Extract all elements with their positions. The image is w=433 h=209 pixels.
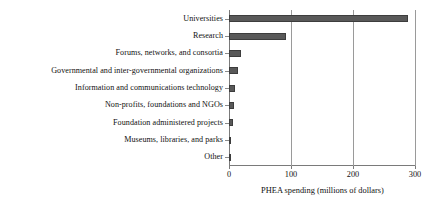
bar [229, 50, 241, 57]
y-tick-mark [225, 140, 229, 141]
x-tick-mark [415, 166, 416, 169]
bar [229, 33, 286, 40]
category-label: Universities [0, 14, 223, 23]
y-tick-mark [225, 53, 229, 54]
gridline-300 [415, 10, 416, 166]
category-label: Research [0, 31, 223, 40]
y-tick-mark [225, 123, 229, 124]
category-label: Non-profits, foundations and NGOs [0, 100, 223, 109]
bar [229, 85, 235, 92]
category-axis-labels: UniversitiesResearchForums, networks, an… [0, 10, 226, 166]
x-tick-mark [229, 166, 230, 169]
y-tick-mark [225, 157, 229, 158]
x-tick-mark [353, 166, 354, 169]
x-tick-label: 0 [209, 170, 249, 180]
category-label: Other [0, 152, 223, 161]
gridline-100 [291, 10, 292, 166]
x-axis-title: PHEA spending (millions of dollars) [229, 186, 416, 196]
y-tick-mark [225, 36, 229, 37]
y-tick-mark [225, 19, 229, 20]
bar [229, 67, 238, 74]
x-tick-mark [291, 166, 292, 169]
bar [229, 15, 408, 22]
plot-area [229, 10, 415, 166]
y-tick-mark [225, 88, 229, 89]
x-tick-label: 200 [333, 170, 373, 180]
x-tick-label: 300 [395, 170, 433, 180]
category-label: Museums, libraries, and parks [0, 135, 223, 144]
category-label: Forums, networks, and consortia [0, 48, 223, 57]
bar-chart: UniversitiesResearchForums, networks, an… [0, 0, 433, 209]
bar [229, 137, 231, 144]
bar [229, 154, 231, 161]
gridline-200 [353, 10, 354, 166]
category-label: Governmental and inter-governmental orga… [0, 66, 223, 75]
y-tick-mark [225, 105, 229, 106]
bar [229, 119, 233, 126]
bar [229, 102, 234, 109]
category-label: Foundation administered projects [0, 118, 223, 127]
y-tick-mark [225, 71, 229, 72]
x-tick-label: 100 [271, 170, 311, 180]
category-label: Information and communications technolog… [0, 83, 223, 92]
